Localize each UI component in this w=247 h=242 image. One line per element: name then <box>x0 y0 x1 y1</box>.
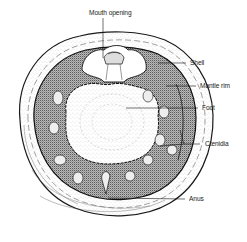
label-mouth-opening: Mouth opening <box>89 8 132 17</box>
label-mantle-rim: Mantle rim <box>200 81 230 90</box>
label-foot: Foot <box>202 103 215 112</box>
label-shell: Shell <box>190 58 204 67</box>
label-anus: Anus <box>189 194 204 203</box>
label-ctenidia: Ctenidia <box>205 139 229 148</box>
abalone-diagram <box>0 0 247 242</box>
